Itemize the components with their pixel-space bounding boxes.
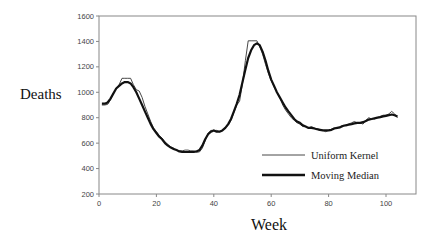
legend: Uniform Kernel Moving Median (262, 150, 380, 181)
y-axis-label: Deaths (20, 86, 62, 103)
y-tick-label: 400 (81, 164, 94, 173)
series-lines (102, 41, 398, 152)
legend-label-moving-median: Moving Median (311, 170, 380, 181)
x-axis-label: Week (251, 216, 287, 234)
x-tick-label: 20 (152, 199, 160, 208)
x-tick-label: 0 (97, 199, 101, 208)
line-chart: 2004006008001000120014001600 02040608010… (0, 0, 438, 241)
y-tick-label: 1200 (77, 62, 94, 71)
y-tick-label: 600 (81, 139, 94, 148)
x-axis-ticks: 020406080100 (97, 194, 392, 208)
x-tick-label: 60 (267, 199, 275, 208)
series-line-uniform-kernel (102, 41, 398, 152)
x-tick-label: 40 (210, 199, 218, 208)
y-axis-ticks: 2004006008001000120014001600 (77, 12, 99, 199)
y-tick-label: 1000 (77, 88, 94, 97)
legend-label-uniform-kernel: Uniform Kernel (311, 150, 378, 161)
y-tick-label: 200 (81, 190, 94, 199)
y-tick-label: 800 (81, 113, 94, 122)
y-tick-label: 1600 (77, 12, 94, 21)
x-tick-label: 80 (324, 199, 332, 208)
series-line-moving-median (102, 43, 398, 152)
y-tick-label: 1400 (77, 37, 94, 46)
x-tick-label: 100 (380, 199, 393, 208)
